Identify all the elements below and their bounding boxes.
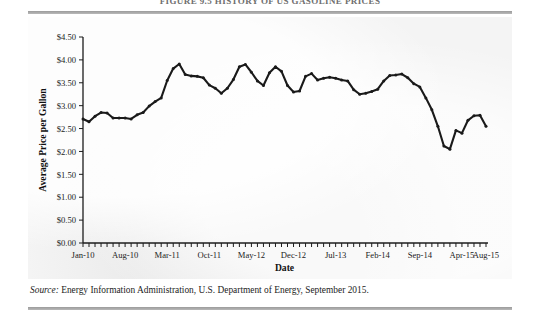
- data-point: [196, 75, 199, 78]
- data-point: [82, 117, 85, 120]
- data-point: [394, 74, 397, 77]
- data-point: [418, 85, 421, 88]
- data-point: [88, 120, 91, 123]
- bottom-divider-rule: [28, 307, 512, 310]
- data-point: [262, 84, 265, 87]
- data-point: [286, 84, 289, 87]
- data-point: [250, 71, 253, 74]
- data-point: [322, 77, 325, 80]
- data-point: [136, 113, 139, 116]
- data-point: [316, 79, 319, 82]
- data-point: [310, 72, 313, 75]
- x-axis-tick-label: Apr-15: [450, 250, 475, 260]
- data-point: [214, 87, 217, 90]
- data-point: [400, 73, 403, 76]
- x-axis-tick-label: Sep-14: [408, 250, 433, 260]
- data-point: [448, 148, 451, 151]
- data-point: [412, 82, 415, 85]
- y-axis-tick-label: $2.50: [57, 124, 76, 134]
- source-note: Source: Energy Information Administratio…: [30, 285, 500, 295]
- x-axis-tick-label: Aug-15: [473, 250, 499, 260]
- data-point: [424, 96, 427, 99]
- data-point: [442, 144, 445, 147]
- data-point: [430, 108, 433, 111]
- source-text: Energy Information Administration, U.S. …: [61, 285, 369, 295]
- data-point: [220, 92, 223, 95]
- source-label: Source:: [30, 285, 59, 295]
- series-line-gas-price: [83, 64, 486, 149]
- y-axis-tick-label: $0.00: [57, 238, 76, 248]
- y-axis-title: Average Price per Gallon: [37, 88, 48, 192]
- data-point: [190, 74, 193, 77]
- x-axis-tick-label: Oct-11: [198, 250, 222, 260]
- x-axis-title: Date: [275, 262, 295, 273]
- data-point: [166, 79, 169, 82]
- x-axis-tick-label: Jul-13: [325, 250, 346, 260]
- data-point: [208, 84, 211, 87]
- data-point: [388, 74, 391, 77]
- data-point: [226, 87, 229, 90]
- data-point: [244, 63, 247, 66]
- y-axis-tick-label: $4.50: [57, 32, 76, 42]
- data-point: [304, 75, 307, 78]
- data-point: [298, 90, 301, 93]
- y-axis-tick-label: $1.50: [57, 170, 76, 180]
- data-point: [238, 65, 241, 68]
- y-axis-tick-label: $0.50: [57, 215, 76, 225]
- data-point: [485, 125, 488, 128]
- data-point: [346, 79, 349, 82]
- data-point: [202, 76, 205, 79]
- x-axis-tick-label: Mar-11: [155, 250, 180, 260]
- data-point: [376, 88, 379, 91]
- data-point: [364, 92, 367, 95]
- data-point: [274, 65, 277, 68]
- x-axis-tick-label: Jan-10: [72, 250, 95, 260]
- line-chart-svg: $0.00$0.50$1.00$1.50$2.00$2.50$3.00$3.50…: [0, 0, 540, 326]
- x-axis-tick-label: Dec-12: [281, 250, 306, 260]
- data-point: [454, 129, 457, 132]
- data-point: [130, 117, 133, 120]
- data-point: [94, 115, 97, 118]
- data-point: [160, 96, 163, 99]
- data-point: [154, 100, 157, 103]
- data-point: [124, 117, 127, 120]
- data-point: [478, 114, 481, 117]
- data-point: [184, 73, 187, 76]
- data-point: [106, 111, 109, 114]
- data-point: [352, 88, 355, 91]
- data-point: [280, 70, 283, 73]
- x-axis-tick-label: May-12: [238, 250, 265, 260]
- y-axis-tick-label: $2.00: [57, 147, 76, 157]
- data-point: [268, 71, 271, 74]
- y-axis-tick-label: $3.50: [57, 78, 76, 88]
- data-point: [142, 111, 145, 114]
- data-point: [148, 105, 151, 108]
- x-axis-tick-label: Feb-14: [366, 250, 391, 260]
- data-point: [178, 63, 181, 66]
- data-point: [100, 111, 103, 114]
- data-point: [172, 67, 175, 70]
- chart-plot-area: $0.00$0.50$1.00$1.50$2.00$2.50$3.00$3.50…: [0, 0, 540, 326]
- data-point: [436, 125, 439, 128]
- data-point: [118, 117, 121, 120]
- figure-container: FIGURE 9.5 HISTORY OF US GASOLINE PRICES…: [0, 0, 540, 326]
- data-point: [112, 117, 115, 120]
- y-axis-tick-label: $3.00: [57, 101, 76, 111]
- y-axis-tick-label: $1.00: [57, 192, 76, 202]
- data-point: [340, 79, 343, 82]
- data-point: [466, 119, 469, 122]
- data-point: [292, 90, 295, 93]
- data-point: [256, 79, 259, 82]
- data-point: [232, 78, 235, 81]
- data-point: [460, 132, 463, 135]
- data-point: [334, 77, 337, 80]
- y-axis-tick-label: $4.00: [57, 55, 76, 65]
- data-point: [382, 79, 385, 82]
- data-point: [358, 93, 361, 96]
- data-point: [406, 76, 409, 79]
- x-axis-tick-label: Aug-10: [112, 250, 138, 260]
- data-point: [328, 76, 331, 79]
- data-point: [472, 114, 475, 117]
- data-point: [370, 90, 373, 93]
